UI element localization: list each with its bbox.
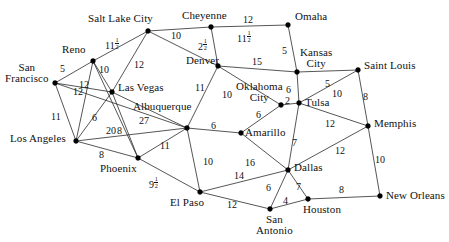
edge-weight-value: 27 [139,115,149,126]
edge-weight-value: 8 [117,125,122,136]
city-label-las_vegas: Las Vegas [118,82,164,93]
edge-weight-oklahoma_city-amarillo: 6 [256,109,261,120]
edge-weight-san_francisco-los_angeles: 11 [51,111,61,122]
graph-node-phoenix[interactable] [136,156,141,161]
edge-weight-cheyenne-omaha: 12 [243,14,253,25]
edge-weight-value: 11 [105,40,115,51]
edge-weight-phoenix-el_paso: 912 [149,176,158,190]
edge-weight-dallas-san_antonio: 6 [266,182,271,193]
graph-node-albuquerque[interactable] [185,126,190,131]
graph-edge [288,25,297,72]
city-label-kansas_city: KansasCity [300,47,332,69]
edge-weight-value: 11 [195,82,205,93]
city-label-saint_louis: Saint Louis [364,60,416,71]
city-label-houston: Houston [303,204,341,215]
edge-weight-value: 7 [296,181,301,192]
edge-weight-memphis-dallas: 12 [335,145,345,156]
graph-edge [138,158,200,192]
graph-node-saint_louis[interactable] [356,68,361,73]
graph-diagram: SanFranciscoRenoSalt Lake CityCheyenneOm… [0,0,449,242]
edge-weight-denver-oklahoma_city: 10 [222,89,232,100]
graph-node-san_antonio[interactable] [268,207,273,212]
edge-weight-albuquerque-phoenix: 11 [160,140,170,151]
edge-weight-fraction: 12 [247,30,251,44]
edge-weight-tulsa-dallas: 7 [292,137,297,148]
edge-weight-value: 12 [134,59,144,70]
city-label-albuquerque: Albuquerque [133,101,192,112]
edge-weight-value: 6 [92,112,97,123]
edge-weight-value: 12 [79,79,89,90]
city-label-tulsa: Tulsa [305,97,330,108]
graph-edge [76,128,187,141]
edge-weight-albuquerque-el_paso: 10 [203,156,213,167]
edge-weight-value: 6 [211,120,216,131]
edge-weight-value: 10 [332,88,342,99]
edge-weight-saint_louis-tulsa: 10 [332,88,342,99]
graph-node-memphis[interactable] [366,124,371,129]
edge-weight-kansas_city-saint_louis: 5 [325,78,330,89]
city-label-oklahoma_city: OklahomaCity [236,81,283,103]
edge-weight-las_vegas-phoenix: 8 [117,125,122,136]
edge-weight-value: 7 [292,137,297,148]
graph-node-salt_lake_city[interactable] [146,29,151,34]
edge-weight-value: 10 [171,30,181,41]
graph-edge [200,170,288,192]
edge-weight-value: 10 [203,156,213,167]
edge-weight-value: 10 [375,154,385,165]
graph-node-new_orleans[interactable] [378,194,383,199]
edge-weight-memphis-new_orleans: 10 [375,154,385,165]
city-label-reno: Reno [62,44,86,55]
edge-weight-houston-new_orleans: 8 [339,184,344,195]
graph-node-cheyenne[interactable] [209,25,214,30]
graph-edge [297,70,358,72]
city-label-los_angeles: Los Angeles [10,133,66,144]
city-label-line: Francisco [5,73,49,84]
graph-node-amarillo[interactable] [239,131,244,136]
edge-weight-tulsa-memphis: 12 [325,118,335,129]
city-label-dallas: Dallas [294,162,323,173]
city-label-line: City [236,92,283,103]
city-label-el_paso: El Paso [170,197,204,208]
city-label-denver: Denver [186,55,219,66]
graph-node-dallas[interactable] [286,168,291,173]
edge-weight-denver-albuquerque: 11 [195,82,205,93]
city-label-phoenix: Phoenix [100,163,137,174]
edge-weight-reno-los_angeles: 12 [79,79,89,90]
edge-weight-value: 12 [335,145,345,156]
edge-weight-value: 4 [283,195,288,206]
edge-weight-value: 8 [363,91,368,102]
graph-node-omaha[interactable] [286,23,291,28]
graph-node-las_vegas[interactable] [110,90,115,95]
graph-edge [93,31,148,61]
edge-weight-san_antonio-houston: 4 [283,195,288,206]
graph-node-kansas_city[interactable] [295,70,300,75]
edge-weight-value: 12 [243,14,253,25]
edge-weight-los_angeles-phoenix: 8 [99,149,104,160]
edge-weight-denver-kansas_city: 15 [252,56,262,67]
city-label-new_orleans: New Orleans [386,190,445,201]
graph-node-los_angeles[interactable] [74,139,79,144]
edge-weight-denver-salt_lake_city: 1112 [237,30,251,44]
graph-node-el_paso[interactable] [198,190,203,195]
edge-weight-el_paso-dallas: 14 [234,170,244,181]
graph-node-oklahoma_city[interactable] [279,103,284,108]
edge-weight-fraction: 12 [203,38,207,52]
edge-weight-los_angeles-albuquerque: 20 [106,125,116,136]
edge-weight-value: 10 [99,64,109,75]
city-label-salt_lake_city: Salt Lake City [88,13,153,24]
edge-weight-salt_lake_city-cheyenne: 10 [171,30,181,41]
city-label-memphis: Memphis [374,118,416,129]
edge-weight-value: 2 [285,95,290,106]
graph-node-tulsa[interactable] [297,101,302,106]
edge-weight-value: 6 [266,182,271,193]
city-label-amarillo: Amarillo [245,127,286,138]
edge-weight-dallas-houston: 7 [296,181,301,192]
edge-weight-value: 15 [252,56,262,67]
city-label-san_antonio: SanAntonio [256,214,293,236]
edge-weight-value: 8 [339,184,344,195]
graph-node-houston[interactable] [306,197,311,202]
edge-weight-omaha-kansas_city: 5 [282,45,287,56]
graph-node-reno[interactable] [91,59,96,64]
graph-node-san_francisco[interactable] [53,81,58,86]
edge-weight-albuquerque-amarillo: 6 [211,120,216,131]
